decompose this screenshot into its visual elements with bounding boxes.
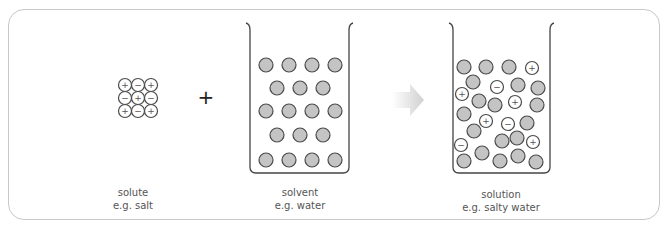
water-molecule [259, 153, 273, 167]
water-molecule [530, 98, 544, 112]
solute-label: solute [73, 186, 193, 199]
positive-ion-sign: + [121, 106, 129, 116]
plus-operator: + [198, 85, 215, 109]
negative-ion-sign: − [121, 93, 129, 103]
solvent-label: solvent [240, 186, 360, 199]
water-molecule [488, 98, 502, 112]
negative-ion-sign: − [134, 80, 142, 90]
positive-ion-sign: + [147, 106, 155, 116]
solute-example: e.g. salt [73, 199, 193, 212]
water-molecule [293, 81, 307, 95]
water-molecule [510, 131, 524, 145]
solute-crystal: +−+−+−+−+ [119, 79, 158, 118]
solution-caption: solution e.g. salty water [441, 188, 561, 214]
positive-ion-sign: + [458, 89, 466, 99]
positive-ion-sign: + [529, 137, 537, 147]
positive-ion-sign: + [147, 80, 155, 90]
solution-label: solution [441, 188, 561, 201]
positive-ion-sign: + [528, 63, 536, 73]
water-molecule [282, 104, 296, 118]
water-molecule [529, 155, 543, 169]
positive-ion-sign: + [511, 97, 519, 107]
water-particles [259, 58, 342, 167]
water-molecule [472, 94, 486, 108]
solvent-beaker [246, 23, 353, 173]
solution-beaker: +−+++−−+ [449, 23, 554, 173]
solute-caption: solute e.g. salt [73, 186, 193, 212]
water-molecule [305, 153, 319, 167]
water-molecule [511, 149, 525, 163]
solution-particles: +−+++−−+ [455, 60, 546, 169]
solvent-example: e.g. water [240, 199, 360, 212]
water-molecule [457, 154, 471, 168]
water-molecule [475, 146, 489, 160]
water-molecule [531, 81, 545, 95]
water-molecule [328, 153, 342, 167]
water-molecule [259, 104, 273, 118]
solvent-caption: solvent e.g. water [240, 186, 360, 212]
water-molecule [457, 107, 471, 121]
water-molecule [305, 58, 319, 72]
water-molecule [305, 104, 319, 118]
water-molecule [467, 124, 481, 138]
positive-ion-sign: + [121, 80, 129, 90]
water-molecule [479, 60, 493, 74]
water-molecule [316, 81, 330, 95]
process-arrow-icon [392, 84, 424, 116]
negative-ion-sign: − [147, 93, 155, 103]
water-molecule [495, 134, 509, 148]
negative-ion-sign: − [493, 82, 501, 92]
water-molecule [270, 128, 284, 142]
water-molecule [259, 58, 273, 72]
negative-ion-sign: − [134, 106, 142, 116]
positive-ion-sign: + [134, 93, 142, 103]
positive-ion-sign: + [482, 116, 490, 126]
water-molecule [316, 128, 330, 142]
water-molecule [328, 104, 342, 118]
water-molecule [502, 60, 516, 74]
water-molecule [520, 116, 534, 130]
negative-ion-sign: − [504, 119, 512, 129]
water-molecule [282, 58, 296, 72]
solution-example: e.g. salty water [441, 201, 561, 214]
water-molecule [293, 128, 307, 142]
water-molecule [493, 154, 507, 168]
negative-ion-sign: − [457, 140, 465, 150]
water-molecule [511, 78, 525, 92]
water-molecule [282, 153, 296, 167]
water-molecule [457, 60, 471, 74]
water-molecule [328, 58, 342, 72]
water-molecule [270, 81, 284, 95]
water-molecule [466, 75, 480, 89]
